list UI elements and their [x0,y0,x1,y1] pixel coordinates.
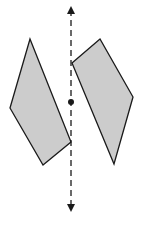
left-quadrilateral [10,39,71,165]
right-quadrilateral [72,39,133,164]
reflection-diagram [0,0,142,230]
diagram-canvas [0,0,142,230]
center-point [68,99,74,105]
